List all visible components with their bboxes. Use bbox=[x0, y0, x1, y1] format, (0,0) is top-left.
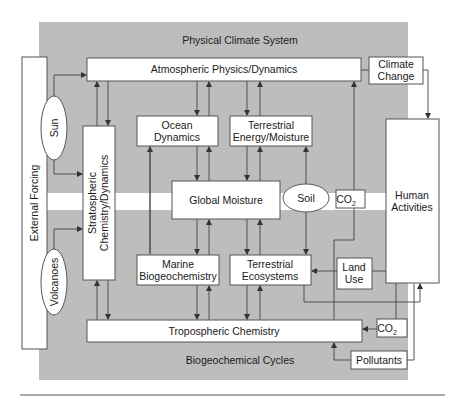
marine-label-2: Biogeochemistry bbox=[139, 270, 217, 282]
atmospheric-physics-label: Atmospheric Physics/Dynamics bbox=[151, 63, 297, 75]
tropospheric-label: Tropospheric Chemistry bbox=[168, 325, 280, 337]
co2-mid-label: CO bbox=[336, 193, 352, 205]
co2-mid-subscript: 2 bbox=[352, 200, 356, 207]
climate-change-label-2: Change bbox=[378, 70, 415, 82]
external-forcing-label: External Forcing bbox=[28, 165, 40, 242]
co2-bottom-subscript: 2 bbox=[393, 329, 397, 336]
volcanoes-label: Volcanoes bbox=[48, 258, 60, 306]
global-moisture-label: Global Moisture bbox=[189, 194, 263, 206]
sun-label: Sun bbox=[48, 119, 60, 138]
co2-bottom-label: CO bbox=[377, 322, 393, 334]
ocean-label-1: Ocean bbox=[162, 119, 193, 131]
terr-energy-label-1: Terrestrial bbox=[248, 119, 294, 131]
land-use-label-1: Land bbox=[342, 261, 366, 273]
terr-eco-label-1: Terrestrial bbox=[247, 258, 293, 270]
land-use-label-2: Use bbox=[345, 273, 364, 285]
marine-label-1: Marine bbox=[162, 258, 194, 270]
pollutants-label: Pollutants bbox=[356, 354, 402, 366]
stratospheric-label-2: Chemistry/Dynamics bbox=[98, 155, 110, 251]
terr-eco-label-2: Ecosystems bbox=[242, 270, 299, 282]
climate-change-label-1: Climate bbox=[378, 58, 414, 70]
ocean-label-2: Dynamics bbox=[154, 131, 200, 143]
human-label-1: Human bbox=[395, 189, 429, 201]
stratospheric-label-1: Stratospheric bbox=[86, 172, 98, 234]
earth-system-diagram: Physical Climate System Biogeochemical C… bbox=[0, 0, 461, 400]
soil-label: Soil bbox=[297, 192, 315, 204]
physical-climate-label: Physical Climate System bbox=[182, 34, 298, 46]
biogeochemical-label: Biogeochemical Cycles bbox=[186, 354, 295, 366]
terr-energy-label-2: Energy/Moisture bbox=[233, 131, 310, 143]
human-label-2: Activities bbox=[391, 201, 432, 213]
